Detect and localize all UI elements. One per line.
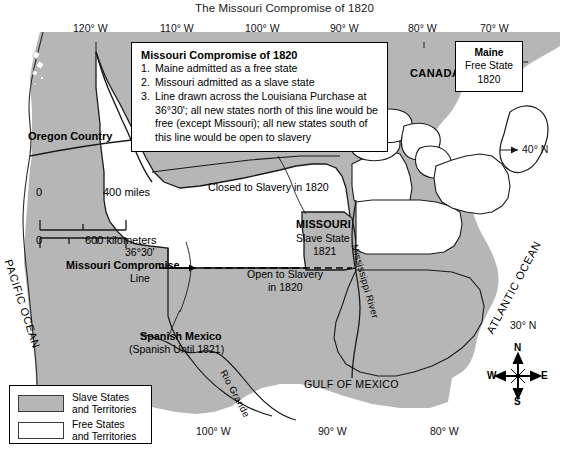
label-spanish-until: (Spanish Until 1821) <box>129 343 224 355</box>
legend-label-free: Free States and Territories <box>72 419 136 442</box>
label-missouri-status: Slave State <box>296 232 350 244</box>
lon-label-70w: 70° W <box>480 22 509 34</box>
infobox-item-2-number: 2. <box>141 76 150 90</box>
lat-label-40n: 40° N <box>522 143 548 155</box>
legend-label-free-line2: and Territories <box>72 431 136 442</box>
legend-label-slave-line2: and Territories <box>72 404 136 415</box>
scale-km-zero: 0 <box>36 234 42 247</box>
label-open-to-slavery-2: in 1820 <box>268 281 303 294</box>
infobox-item-1: 1. Maine admitted as a free state <box>141 62 379 76</box>
compass-east-label: E <box>541 370 548 381</box>
lon-label-110w: 110° W <box>160 22 194 34</box>
maine-box-year: 1820 <box>458 73 520 86</box>
scale-miles-zero: 0 <box>36 186 42 199</box>
infobox-item-3-text: Line drawn across the Louisiana Purchase… <box>155 90 378 143</box>
maine-box-status: Free State <box>458 59 520 72</box>
infobox-item-1-text: Maine admitted as a free state <box>155 62 298 74</box>
scale-km-label: 600 kilometers <box>85 234 157 247</box>
label-missouri-name: MISSOURI <box>296 218 351 231</box>
label-spanish-mexico: Spanish Mexico <box>140 330 222 343</box>
lon-label-100w: 100° W <box>245 22 280 34</box>
lon-label-120w: 120° W <box>73 22 108 34</box>
compass-west-label: W <box>487 370 496 381</box>
legend-label-slave-line1: Slave States <box>72 392 129 403</box>
lon-label-bottom-90w: 90° W <box>318 425 347 437</box>
label-compromise-line-word: Line <box>130 272 150 284</box>
infobox-item-2: 2. Missouri admitted as a slave state <box>141 76 379 90</box>
compass-rose: N S W E <box>487 346 549 406</box>
legend-entry-slave: Slave States and Territories <box>18 392 136 415</box>
scale-miles-label: 400 miles <box>103 186 150 199</box>
label-gulf-of-mexico: GULF OF MEXICO <box>304 378 399 391</box>
ohio-valley-free-states <box>356 200 462 254</box>
label-missouri-compromise: Missouri Compromise <box>66 259 179 272</box>
maine-box-title: Maine <box>458 46 520 59</box>
compass-north-label: N <box>514 342 521 353</box>
infobox-list: 1. Maine admitted as a free state 2. Mis… <box>141 62 379 144</box>
maine-callout-box: Maine Free State 1820 <box>455 41 523 92</box>
infobox-item-3-number: 3. <box>141 90 150 104</box>
infobox-item-2-text: Missouri admitted as a slave state <box>155 76 315 88</box>
missouri-compromise-infobox: Missouri Compromise of 1820 1. Maine adm… <box>131 42 388 152</box>
legend-swatch-free-icon <box>18 422 64 439</box>
lon-label-bottom-80w: 80° W <box>430 425 459 437</box>
infobox-heading: Missouri Compromise of 1820 <box>141 49 379 61</box>
lon-label-80w: 80° W <box>408 22 437 34</box>
legend-label-slave: Slave States and Territories <box>72 392 136 415</box>
label-oregon-country: Oregon Country <box>28 130 112 143</box>
legend-swatch-slave-icon <box>18 395 64 412</box>
lon-label-bottom-100w: 100° W <box>196 425 231 437</box>
map-figure: The Missouri Compromise of 1820 <box>0 0 569 463</box>
infobox-item-1-number: 1. <box>141 62 150 76</box>
label-open-to-slavery-1: Open to Slavery <box>247 268 323 281</box>
legend-entry-free: Free States and Territories <box>18 419 136 442</box>
label-compromise-latitude: 36°30' <box>125 246 155 258</box>
page-title: The Missouri Compromise of 1820 <box>0 2 569 14</box>
lon-label-90w: 90° W <box>330 22 359 34</box>
lat-label-30n: 30° N <box>510 319 536 331</box>
label-closed-to-slavery: Closed to Slavery in 1820 <box>208 181 329 194</box>
label-missouri-year: 1821 <box>313 245 336 257</box>
compass-south-label: S <box>514 396 521 407</box>
label-canada: CANADA <box>410 67 460 80</box>
legend-label-free-line1: Free States <box>72 419 125 430</box>
map-legend: Slave States and Territories Free States… <box>9 385 152 444</box>
infobox-item-3: 3. Line drawn across the Louisiana Purch… <box>141 90 379 144</box>
